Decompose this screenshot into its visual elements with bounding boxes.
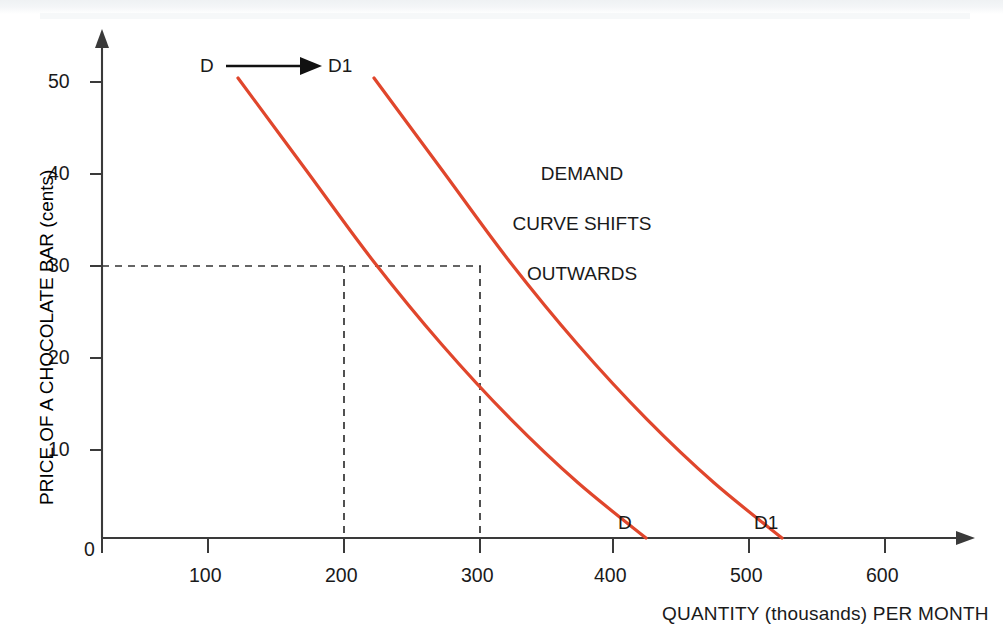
x-tick-label-200: 200: [325, 566, 358, 586]
x-tick-label-600: 600: [866, 566, 899, 586]
x-axis-title: QUANTITY (thousands) PER MONTH: [662, 604, 989, 623]
chart-canvas: 50 40 30 20 10 0 100 200 300 400 500 600…: [0, 0, 1003, 639]
x-tick-label-500: 500: [730, 566, 763, 586]
x-tick-label-100: 100: [189, 566, 222, 586]
origin-label: 0: [84, 540, 95, 560]
x-tick-label-400: 400: [594, 566, 627, 586]
y-axis-title: PRICE OF A CHOCOLATE BAR (cents): [36, 170, 58, 505]
y-axis: [95, 29, 109, 538]
curve-label-d-bottom: D: [618, 513, 632, 532]
curve-label-d1-bottom: D1: [754, 513, 778, 532]
shift-annotation: DEMAND CURVE SHIFTS OUTWARDS: [470, 136, 694, 311]
shift-annotation-line-3: OUTWARDS: [470, 261, 694, 286]
x-tick-label-300: 300: [461, 566, 494, 586]
curve-label-d1-top: D1: [328, 56, 352, 75]
price-guide-dashed: [102, 266, 481, 538]
shift-annotation-line-1: DEMAND: [470, 161, 694, 186]
demand-curve-plot: [0, 0, 1003, 639]
x-axis: [102, 531, 975, 545]
shift-annotation-line-2: CURVE SHIFTS: [470, 211, 694, 236]
curve-label-d-top: D: [200, 56, 214, 75]
x-axis-ticks: [102, 538, 885, 553]
shift-arrow-icon: [226, 57, 322, 75]
y-tick-label-50: 50: [48, 72, 70, 92]
